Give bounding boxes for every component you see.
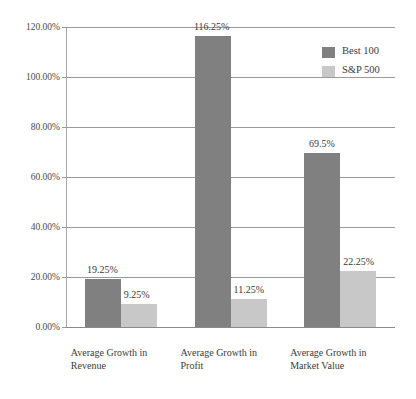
chart-title: [0, 0, 416, 2]
legend-swatch-icon: [322, 66, 335, 77]
bar-best-100[interactable]: [195, 36, 231, 327]
legend-label: S&P 500: [342, 64, 380, 75]
x-axis-category-line: Revenue: [71, 360, 186, 373]
bar-value-label: 11.25%: [234, 284, 264, 295]
y-axis-tick-label: 40.00%: [4, 222, 60, 232]
bar-sp-500[interactable]: [121, 304, 157, 327]
y-axis-tick-label: 20.00%: [4, 272, 60, 282]
x-axis-category-line: Average Growth in: [290, 347, 405, 360]
y-axis-tick-labels: 0.00%20.00%40.00%60.00%80.00%100.00%120.…: [0, 27, 60, 327]
gridline: [66, 177, 395, 178]
x-axis-category-line: Profit: [181, 360, 296, 373]
bar-best-100[interactable]: [85, 279, 121, 327]
y-axis-tick-label: 60.00%: [4, 172, 60, 182]
bar-value-label: 9.25%: [124, 289, 150, 300]
bar-sp-500[interactable]: [340, 271, 376, 327]
y-axis-tick-label: 0.00%: [4, 322, 60, 332]
gridline: [66, 127, 395, 128]
gridline: [66, 227, 395, 228]
bar-value-label: 69.5%: [309, 138, 335, 149]
y-axis-tick-label: 100.00%: [4, 72, 60, 82]
bar-sp-500[interactable]: [231, 299, 267, 327]
chart-legend: Best 100S&P 500: [318, 46, 414, 84]
gridline: [66, 27, 395, 28]
y-axis-tick-label: 120.00%: [4, 22, 60, 32]
x-axis-category-label: Average Growth inProfit: [181, 347, 296, 372]
bar-value-label: 22.25%: [343, 256, 374, 267]
bar-value-label: 116.25%: [194, 21, 229, 32]
x-axis-category-label: Average Growth inRevenue: [71, 347, 186, 372]
y-axis-tick-label: 80.00%: [4, 122, 60, 132]
x-axis-category-line: Average Growth in: [181, 347, 296, 360]
x-axis-category-line: Average Growth in: [71, 347, 186, 360]
bar-best-100[interactable]: [304, 153, 340, 327]
bar-value-label: 19.25%: [87, 264, 118, 275]
x-axis-category-label: Average Growth inMarket Value: [290, 347, 405, 372]
x-axis-category-line: Market Value: [290, 360, 405, 373]
legend-label: Best 100: [342, 45, 379, 56]
legend-swatch-icon: [322, 47, 335, 58]
bar-chart: 0.00%20.00%40.00%60.00%80.00%100.00%120.…: [0, 0, 416, 399]
gridline: [66, 327, 395, 328]
